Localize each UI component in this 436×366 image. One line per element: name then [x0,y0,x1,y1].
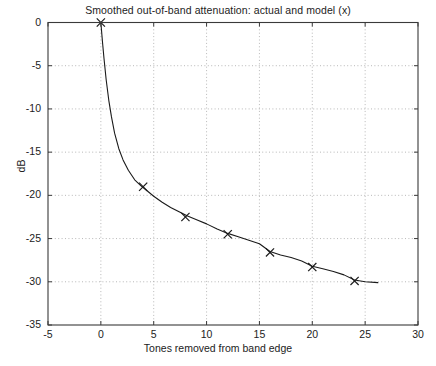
y-tick-label: -35 [11,318,41,330]
x-tick-label: 5 [137,328,171,340]
y-tick-label: -15 [11,145,41,157]
data-curve-actual [101,23,378,283]
y-tick-label: 0 [11,16,41,28]
plot-area [0,0,436,366]
x-tick-label: 20 [295,328,329,340]
y-tick-label: -30 [11,275,41,287]
y-tick-label: -5 [11,59,41,71]
figure-canvas: Smoothed out-of-band attenuation: actual… [0,0,436,366]
x-tick-label: 30 [401,328,435,340]
axes-frame [48,23,418,326]
y-tick-label: -10 [11,102,41,114]
x-tick-label: 0 [84,328,118,340]
x-tick-label: 25 [348,328,382,340]
x-tick-label: 15 [242,328,276,340]
x-axis-label: Tones removed from band edge [0,342,436,354]
y-tick-label: -20 [11,188,41,200]
y-tick-label: -25 [11,232,41,244]
x-tick-label: 10 [190,328,224,340]
data-marker-model [139,183,147,191]
